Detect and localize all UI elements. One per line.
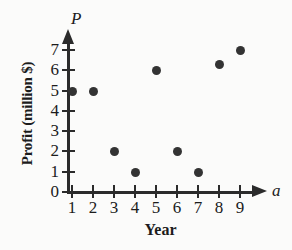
y-axis-arrowhead-icon bbox=[62, 29, 74, 44]
x-axis-tick-label: 6 bbox=[169, 199, 185, 216]
x-axis-line bbox=[67, 191, 254, 194]
x-axis-tick-label: 7 bbox=[190, 199, 206, 216]
x-axis-tick-label: 3 bbox=[106, 199, 122, 216]
x-axis-arrowhead-icon bbox=[252, 185, 267, 197]
x-axis-tick-label: 2 bbox=[85, 199, 101, 216]
y-axis-tick-label: 4 bbox=[43, 102, 59, 119]
y-axis-tick bbox=[62, 191, 75, 193]
y-axis-tick bbox=[62, 49, 75, 51]
x-axis-tick-label: 1 bbox=[64, 199, 80, 216]
x-axis-title: Year bbox=[67, 222, 254, 238]
y-axis-tick bbox=[62, 171, 75, 173]
data-point bbox=[194, 168, 203, 177]
x-axis-tick bbox=[155, 185, 157, 198]
y-axis-tick bbox=[62, 110, 75, 112]
y-axis-tick-label: 3 bbox=[43, 122, 59, 139]
y-axis-tick-label: 1 bbox=[43, 163, 59, 180]
plot-area: P a Profit (million $) Year 01234567 123… bbox=[0, 0, 292, 250]
data-point bbox=[89, 87, 98, 96]
data-point bbox=[152, 66, 161, 75]
x-axis-tick bbox=[176, 185, 178, 198]
x-axis-tick bbox=[134, 185, 136, 198]
x-axis-tick bbox=[197, 185, 199, 198]
y-axis-variable-label: P bbox=[71, 10, 81, 27]
y-axis-tick-label: 6 bbox=[43, 61, 59, 78]
y-axis-tick-label: 5 bbox=[43, 82, 59, 99]
y-axis-tick-label: 7 bbox=[43, 41, 59, 58]
data-point bbox=[68, 87, 77, 96]
x-axis-tick-label: 4 bbox=[127, 199, 143, 216]
x-axis-tick bbox=[113, 185, 115, 198]
x-axis-tick-label: 8 bbox=[211, 199, 227, 216]
x-axis-tick bbox=[71, 185, 73, 198]
data-point bbox=[173, 147, 182, 156]
x-axis-tick-label: 5 bbox=[148, 199, 164, 216]
data-point bbox=[215, 60, 224, 69]
data-point bbox=[236, 46, 245, 55]
data-point bbox=[110, 147, 119, 156]
x-axis-tick bbox=[239, 185, 241, 198]
data-point bbox=[131, 168, 140, 177]
y-axis-tick-label: 0 bbox=[43, 183, 59, 200]
y-axis-tick-label: 2 bbox=[43, 142, 59, 159]
y-axis-tick bbox=[62, 69, 75, 71]
scatter-plot-figure: P a Profit (million $) Year 01234567 123… bbox=[0, 0, 292, 250]
x-axis-variable-label: a bbox=[272, 182, 281, 199]
y-axis-tick bbox=[62, 150, 75, 152]
y-axis-tick bbox=[62, 130, 75, 132]
x-axis-tick-label: 9 bbox=[232, 199, 248, 216]
x-axis-tick bbox=[92, 185, 94, 198]
y-axis-title: Profit (million $) bbox=[20, 34, 35, 194]
x-axis-tick bbox=[218, 185, 220, 198]
